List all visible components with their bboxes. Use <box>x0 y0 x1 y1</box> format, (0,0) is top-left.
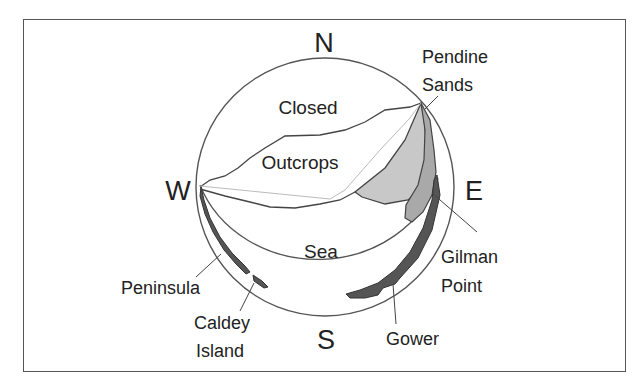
caldey-line-2: Island <box>196 341 244 361</box>
region-sea-label: Sea <box>304 241 338 262</box>
pendine-sands-label: Pendine Sands <box>422 47 493 95</box>
region-outcrops-label: Outcrops <box>261 152 338 173</box>
caldey-line-1: Caldey <box>194 313 250 333</box>
peninsula-label: Peninsula <box>121 278 201 298</box>
compass-west: W <box>165 176 191 206</box>
pendine-leader <box>424 96 438 110</box>
gilman-point-label: Gilman Point <box>441 247 503 296</box>
caldey-leader <box>240 283 254 311</box>
region-closed-label: Closed <box>278 97 337 118</box>
gilman-line-1: Gilman <box>441 247 498 267</box>
caldey-island-label: Caldey Island <box>194 313 255 361</box>
caldey-island-region <box>253 275 268 288</box>
peninsula-leader <box>196 254 221 277</box>
skyline-diagram: N E S W Closed Outcrops Sea Pendine Sand… <box>0 0 641 388</box>
compass-east: E <box>465 176 483 206</box>
compass-north: N <box>314 28 334 58</box>
gower-label: Gower <box>386 329 439 349</box>
gower-leader <box>393 284 396 324</box>
gilman-line-2: Point <box>441 276 482 296</box>
pendine-line-1: Pendine <box>422 47 488 67</box>
pendine-line-2: Sands <box>422 75 473 95</box>
compass-south: S <box>317 325 335 355</box>
